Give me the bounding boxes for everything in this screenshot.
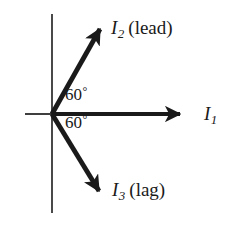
degree-sign-icon-lead: ° xyxy=(82,84,87,98)
angle-label-lag: 60° xyxy=(65,113,87,131)
degree-sign-icon-lag: ° xyxy=(82,112,87,126)
angle-value-lag: 60 xyxy=(65,113,82,132)
phasor-qualifier-i2: (lead) xyxy=(124,17,172,38)
phasor-diagram-figure: I2(lead) I1 I3(lag) 60° 60° xyxy=(0,0,237,228)
phasor-subscript-i1: 1 xyxy=(210,112,217,127)
angle-label-lead: 60° xyxy=(65,85,87,103)
phasor-label-i3: I3(lag) xyxy=(112,180,165,202)
phasor-qualifier-i3: (lag) xyxy=(125,179,165,200)
phasor-label-i1: I1 xyxy=(204,104,217,126)
angle-value-lead: 60 xyxy=(65,85,82,104)
phasor-label-i2: I2(lead) xyxy=(111,18,173,40)
